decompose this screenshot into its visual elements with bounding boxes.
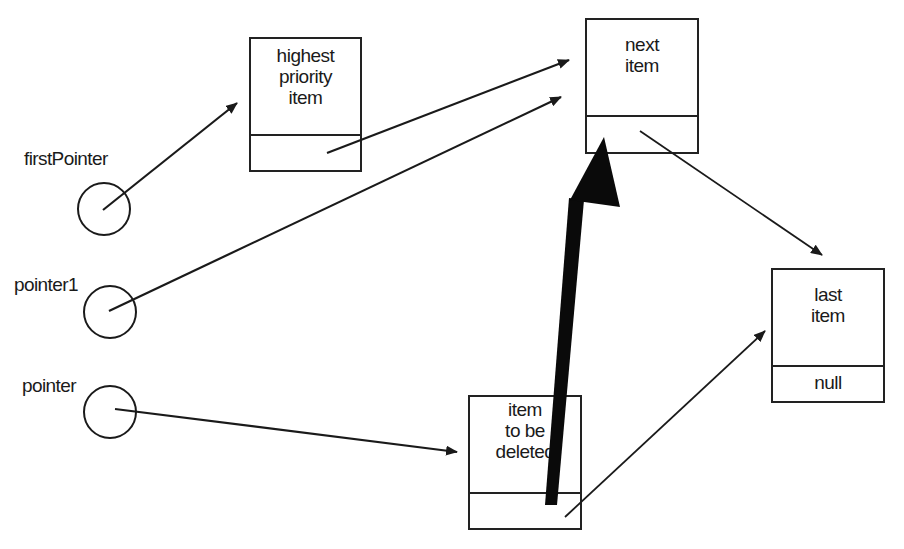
arrow-next-to-last — [640, 131, 822, 255]
pointer-label-pointer: pointer — [22, 375, 76, 397]
arrow-pointer-to-deleted — [115, 409, 457, 452]
pointer-circle-pointer1 — [84, 286, 136, 338]
pointer-circle-pointer — [84, 386, 136, 438]
arrow-pointer1-to-next — [109, 97, 561, 311]
arrow-highest-to-next — [327, 60, 569, 153]
pointer-label-pointer1: pointer1 — [14, 274, 78, 296]
connector-layer — [0, 0, 904, 549]
arrow-deleted-to-last — [565, 331, 765, 517]
thick-arrow-bypass-icon — [545, 137, 620, 505]
arrow-firstpointer-to-highest — [103, 103, 237, 210]
pointer-label-firstpointer: firstPointer — [24, 148, 108, 170]
